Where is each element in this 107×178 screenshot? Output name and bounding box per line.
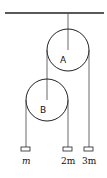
mass-2m-label: 2m — [61, 156, 76, 166]
mass-3m — [84, 147, 93, 151]
mass-m — [21, 147, 30, 151]
mass-3m-label: 3m — [82, 156, 97, 166]
mass-m-label: m — [22, 156, 31, 166]
mass-2m — [63, 147, 72, 151]
pulley-b-label: B — [40, 105, 46, 115]
pulley-a-label: A — [60, 55, 67, 65]
pulley-diagram: A B m 2m 3m — [0, 0, 107, 178]
